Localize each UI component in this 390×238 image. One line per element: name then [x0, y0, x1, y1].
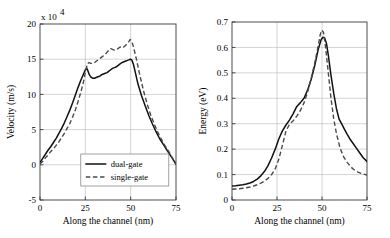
legend-label-dual-gate: dual-gate [111, 159, 143, 169]
y-tick-label: 0.6 [217, 43, 229, 53]
y-tick-label: 0.2 [217, 144, 228, 154]
velocity-plot: -5051015200255075Along the channel (nm)V… [0, 0, 195, 238]
x-tick-label: 50 [318, 203, 328, 213]
y-tick-label: 20 [27, 19, 37, 29]
y-axis-title: Velocity (m/s) [6, 85, 17, 139]
y-tick-label: 0.7 [217, 17, 229, 27]
x-tick-label: 0 [230, 203, 235, 213]
y-tick-label: 0.1 [217, 170, 228, 180]
y-axis-multiplier: x 104 [41, 7, 65, 22]
svg-text:x 10: x 10 [41, 12, 57, 22]
svg-text:4: 4 [60, 7, 65, 17]
y-axis-title: Energy (eV) [198, 87, 209, 134]
y-tick-label: 10 [27, 90, 37, 100]
x-tick-label: 75 [172, 203, 182, 213]
x-tick-label: 25 [273, 203, 283, 213]
y-tick-label: 0.5 [217, 68, 229, 78]
y-tick-label: 5 [32, 125, 37, 135]
energy-plot: 00.10.20.30.40.50.60.70255075Along the c… [195, 0, 390, 238]
x-tick-label: 50 [126, 203, 136, 213]
x-axis-title: Along the channel (nm) [254, 216, 345, 227]
y-tick-label: -5 [29, 195, 37, 205]
energy-panel: 00.10.20.30.40.50.60.70255075Along the c… [195, 0, 390, 238]
x-tick-label: 0 [38, 203, 43, 213]
legend-label-single-gate: single-gate [111, 172, 149, 182]
y-tick-label: 0 [224, 195, 229, 205]
legend: dual-gatesingle-gate [81, 154, 169, 186]
curve-dual-gate [40, 59, 176, 164]
x-tick-label: 25 [81, 203, 91, 213]
curve-single-gate [232, 30, 367, 189]
y-tick-label: 15 [27, 54, 37, 64]
figure-container: -5051015200255075Along the channel (nm)V… [0, 0, 390, 238]
y-tick-label: 0.4 [217, 93, 229, 103]
y-tick-label: 0 [32, 160, 37, 170]
y-tick-label: 0.3 [217, 119, 229, 129]
velocity-panel: -5051015200255075Along the channel (nm)V… [0, 0, 195, 238]
curve-single-gate [40, 39, 176, 164]
x-axis-title: Along the channel (nm) [63, 216, 154, 227]
x-tick-label: 75 [363, 203, 373, 213]
curve-dual-gate [232, 37, 367, 186]
